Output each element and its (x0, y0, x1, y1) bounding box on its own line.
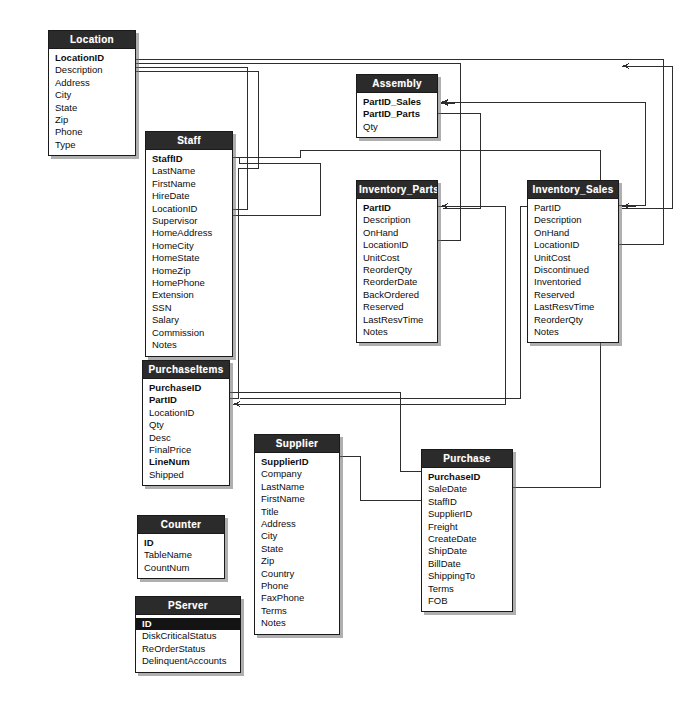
entity-title-supplier[interactable]: Supplier (255, 435, 339, 453)
entity-field[interactable]: DiskCriticalStatus (136, 630, 240, 642)
entity-title-purchaseitems[interactable]: PurchaseItems (143, 361, 229, 379)
entity-field[interactable]: Notes (255, 617, 339, 629)
entity-table-purchase[interactable]: PurchasePurchaseIDSaleDateStaffIDSupplie… (421, 449, 513, 612)
entity-field[interactable]: SupplierID (422, 508, 512, 520)
entity-field[interactable]: Terms (255, 605, 339, 617)
entity-title-counter[interactable]: Counter (138, 516, 224, 534)
entity-field[interactable]: ReOrderStatus (136, 643, 240, 655)
entity-field[interactable]: Commission (146, 327, 232, 339)
entity-field[interactable]: Desc (143, 432, 229, 444)
entity-table-assembly[interactable]: AssemblyPartID_SalesPartID_PartsQty (356, 74, 438, 138)
entity-field[interactable]: LocationID (49, 52, 135, 64)
entity-field[interactable]: FOB (422, 595, 512, 607)
entity-field[interactable]: StaffID (422, 496, 512, 508)
entity-table-supplier[interactable]: SupplierSupplierIDCompanyLastNameFirstNa… (254, 434, 340, 635)
entity-field[interactable]: PartID (143, 394, 229, 406)
entity-field[interactable]: FirstName (146, 178, 232, 190)
entity-field[interactable]: ID (138, 537, 224, 549)
entity-table-inventory_sales[interactable]: Inventory_SalesPartIDDescriptionOnHandLo… (527, 180, 619, 343)
entity-table-counter[interactable]: CounterIDTableNameCountNum (137, 515, 225, 579)
entity-table-purchaseitems[interactable]: PurchaseItemsPurchaseIDPartIDLocationIDQ… (142, 360, 230, 486)
entity-field[interactable]: UnitCost (357, 252, 437, 264)
entity-title-inventory_parts[interactable]: Inventory_Parts (357, 181, 437, 199)
entity-title-inventory_sales[interactable]: Inventory_Sales (528, 181, 618, 199)
entity-field[interactable]: City (49, 89, 135, 101)
entity-field[interactable]: CreateDate (422, 533, 512, 545)
entity-field[interactable]: Notes (146, 339, 232, 351)
entity-field[interactable]: Discontinued (528, 264, 618, 276)
entity-field[interactable]: LocationID (357, 239, 437, 251)
entity-field[interactable]: FinalPrice (143, 444, 229, 456)
entity-field[interactable]: PurchaseID (422, 471, 512, 483)
entity-field[interactable]: ShipDate (422, 545, 512, 557)
entity-field[interactable]: LastName (146, 165, 232, 177)
entity-field[interactable]: BackOrdered (357, 289, 437, 301)
entity-field[interactable]: PurchaseID (143, 382, 229, 394)
entity-table-location[interactable]: LocationLocationIDDescriptionAddressCity… (48, 30, 136, 156)
entity-field[interactable]: OnHand (357, 227, 437, 239)
entity-field[interactable]: ID (136, 618, 240, 630)
entity-field[interactable]: HomePhone (146, 277, 232, 289)
entity-field[interactable]: Company (255, 468, 339, 480)
entity-field[interactable]: CountNum (138, 562, 224, 574)
entity-field[interactable]: Salary (146, 314, 232, 326)
entity-title-purchase[interactable]: Purchase (422, 450, 512, 468)
entity-field[interactable]: Freight (422, 521, 512, 533)
entity-field[interactable]: SupplierID (255, 456, 339, 468)
entity-title-staff[interactable]: Staff (146, 132, 232, 150)
entity-field[interactable]: HomeState (146, 252, 232, 264)
entity-field[interactable]: Phone (49, 126, 135, 138)
entity-field[interactable]: Type (49, 139, 135, 151)
entity-field[interactable]: SSN (146, 302, 232, 314)
entity-field[interactable]: Zip (255, 555, 339, 567)
entity-field[interactable]: Phone (255, 580, 339, 592)
entity-field[interactable]: UnitCost (528, 252, 618, 264)
entity-table-pserver[interactable]: PServerIDDiskCriticalStatusReOrderStatus… (135, 596, 241, 673)
entity-field[interactable]: Description (49, 64, 135, 76)
entity-field[interactable]: Zip (49, 114, 135, 126)
entity-field[interactable]: Inventoried (528, 276, 618, 288)
entity-field[interactable]: LineNum (143, 456, 229, 468)
entity-title-assembly[interactable]: Assembly (357, 75, 437, 93)
entity-field[interactable]: BillDate (422, 558, 512, 570)
entity-field[interactable]: HomeCity (146, 240, 232, 252)
entity-field[interactable]: Country (255, 568, 339, 580)
entity-field[interactable]: PartID (357, 202, 437, 214)
entity-field[interactable]: ReorderQty (528, 314, 618, 326)
entity-field[interactable]: Title (255, 506, 339, 518)
entity-field[interactable]: Reserved (528, 289, 618, 301)
entity-field[interactable]: DelinquentAccounts (136, 655, 240, 667)
entity-field[interactable]: LocationID (528, 239, 618, 251)
entity-field[interactable]: ReorderQty (357, 264, 437, 276)
entity-field[interactable]: HireDate (146, 190, 232, 202)
entity-field[interactable]: PartID_Parts (357, 108, 437, 120)
entity-field[interactable]: Supervisor (146, 215, 232, 227)
entity-field[interactable]: LocationID (146, 203, 232, 215)
entity-field[interactable]: FirstName (255, 493, 339, 505)
entity-field[interactable]: ShippingTo (422, 570, 512, 582)
entity-field[interactable]: HomeZip (146, 265, 232, 277)
entity-field[interactable]: OnHand (528, 227, 618, 239)
entity-field[interactable]: Address (49, 77, 135, 89)
entity-field[interactable]: HomeAddress (146, 227, 232, 239)
entity-field[interactable]: TableName (138, 549, 224, 561)
entity-field[interactable]: Qty (357, 121, 437, 133)
entity-field[interactable]: Reserved (357, 301, 437, 313)
entity-field[interactable]: StaffID (146, 153, 232, 165)
entity-title-pserver[interactable]: PServer (136, 597, 240, 615)
entity-field[interactable]: Terms (422, 583, 512, 595)
entity-field[interactable]: LastResvTime (528, 301, 618, 313)
entity-title-location[interactable]: Location (49, 31, 135, 49)
entity-field[interactable]: Address (255, 518, 339, 530)
entity-field[interactable]: LastName (255, 481, 339, 493)
entity-table-staff[interactable]: StaffStaffIDLastNameFirstNameHireDateLoc… (145, 131, 233, 357)
entity-field[interactable]: Description (528, 214, 618, 226)
entity-table-inventory_parts[interactable]: Inventory_PartsPartIDDescriptionOnHandLo… (356, 180, 438, 343)
entity-field[interactable]: State (255, 543, 339, 555)
entity-field[interactable]: City (255, 530, 339, 542)
entity-field[interactable]: PartID_Sales (357, 96, 437, 108)
entity-field[interactable]: Shipped (143, 469, 229, 481)
entity-field[interactable]: Notes (528, 326, 618, 338)
entity-field[interactable]: SaleDate (422, 483, 512, 495)
entity-field[interactable]: Extension (146, 289, 232, 301)
